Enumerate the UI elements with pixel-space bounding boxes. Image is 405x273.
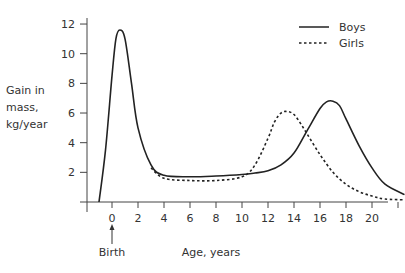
x-tick-label: 0: [109, 212, 116, 225]
y-tick-label: 8: [68, 77, 75, 90]
growth-chart: 24681012 02468101214161820 Boys Girls Bi…: [0, 0, 405, 273]
y-axis-label-line: mass,: [6, 99, 48, 116]
girls-series-line: [151, 111, 405, 199]
legend-girls-label: Girls: [339, 37, 364, 50]
y-ticks: 24681012: [61, 18, 87, 179]
boys-series-line: [99, 30, 405, 202]
x-tick-label: 10: [235, 212, 249, 225]
x-tick-label: 4: [161, 212, 168, 225]
x-tick-label: 12: [261, 212, 275, 225]
y-axis-label-line: Gain in: [6, 82, 48, 99]
y-tick-label: 4: [68, 137, 75, 150]
x-tick-label: 20: [365, 212, 379, 225]
y-tick-label: 2: [68, 166, 75, 179]
birth-annotation: Birth: [99, 224, 125, 259]
birth-label: Birth: [99, 246, 125, 259]
y-tick-label: 10: [61, 48, 75, 61]
y-axis-label: Gain in mass, kg/year: [6, 82, 48, 133]
x-ticks: 02468101214161820: [109, 202, 399, 225]
legend: Boys Girls: [299, 21, 366, 50]
x-axis-label: Age, years: [182, 246, 241, 259]
y-tick-label: 12: [61, 18, 75, 31]
x-tick-label: 14: [287, 212, 301, 225]
legend-boys-label: Boys: [339, 21, 366, 34]
x-tick-label: 16: [313, 212, 327, 225]
y-tick-label: 6: [68, 107, 75, 120]
x-tick-label: 8: [213, 212, 220, 225]
y-axis-label-line: kg/year: [6, 116, 48, 133]
x-tick-label: 18: [339, 212, 353, 225]
x-tick-label: 6: [187, 212, 194, 225]
x-tick-label: 2: [135, 212, 142, 225]
